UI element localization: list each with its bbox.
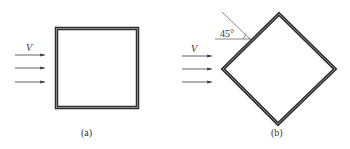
flow-arrows-a [15,55,45,82]
square-body [57,29,138,108]
figure-canvas: V (a) 45° V (b) [0,0,350,149]
flow-arrows-b [182,56,212,82]
angle-arc-icon [243,34,246,40]
panel-a: V (a) [15,29,138,140]
velocity-label-b: V [191,43,199,54]
diamond-body [223,14,335,124]
velocity-label-a: V [26,42,34,53]
angle-label: 45° [220,28,234,39]
caption-a: (a) [81,127,92,139]
caption-b: (b) [271,127,283,139]
angle-indicator: 45° [215,12,251,40]
panel-b: 45° V (b) [182,12,335,139]
